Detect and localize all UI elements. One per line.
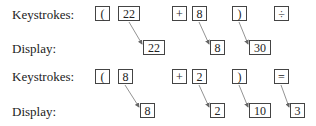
arrows bbox=[0, 0, 316, 126]
arrow-icon bbox=[129, 22, 142, 44]
arrow-icon bbox=[239, 22, 248, 44]
arrow-icon bbox=[199, 22, 209, 44]
arrow-icon bbox=[125, 85, 139, 107]
arrow-icon bbox=[281, 85, 289, 107]
arrow-icon bbox=[199, 85, 209, 107]
arrow-icon bbox=[239, 85, 248, 107]
